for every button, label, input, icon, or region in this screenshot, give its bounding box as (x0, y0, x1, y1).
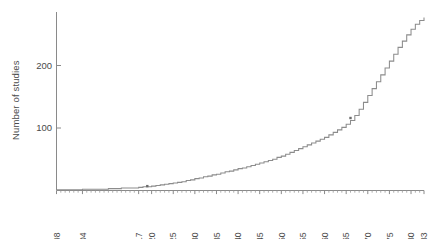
y-axis-ticks: 100200 (36, 60, 61, 133)
y-axis-label-group: Number of studies (10, 60, 21, 140)
x-tick-label-1930: 1930 (190, 232, 200, 239)
x-axis-tick-labels: 1898190419171920192519301935194019451950… (52, 232, 430, 239)
x-tick-label-1945: 1945 (255, 232, 265, 239)
x-tick-label-1917: 1917 (134, 232, 144, 239)
y-tick-label-100: 100 (36, 122, 52, 133)
data-series-group (57, 17, 425, 190)
data-line-series-0 (57, 17, 425, 190)
x-tick-label-1904: 1904 (78, 232, 88, 239)
x-tick-label-1920: 1920 (147, 232, 157, 239)
chart-figure: Number of studies 100200 189819041917192… (0, 0, 441, 239)
y-axis-label: Number of studies (10, 60, 21, 140)
x-tick-label-1925: 1925 (168, 232, 178, 239)
x-tick-label-1950: 1950 (277, 232, 287, 239)
x-tick-label-1970: 1970 (363, 232, 373, 239)
x-tick-label-1980: 1980 (406, 232, 416, 239)
line-chart-canvas: Number of studies 100200 189819041917192… (0, 0, 441, 239)
point-markers-group (146, 117, 352, 188)
x-axis-ticks (57, 191, 425, 195)
x-tick-label-1965: 1965 (341, 232, 351, 239)
x-tick-label-1955: 1955 (298, 232, 308, 239)
y-tick-label-200: 200 (36, 60, 52, 71)
x-tick-label-1935: 1935 (212, 232, 222, 239)
x-tick-label-1940: 1940 (233, 232, 243, 239)
x-tick-label-1960: 1960 (320, 232, 330, 239)
data-point-marker-0 (146, 185, 148, 187)
x-tick-label-1898: 1898 (52, 232, 62, 239)
x-tick-label-1983: 1983 (419, 232, 429, 239)
x-tick-label-1975: 1975 (385, 232, 395, 239)
data-point-marker-1 (349, 117, 351, 119)
